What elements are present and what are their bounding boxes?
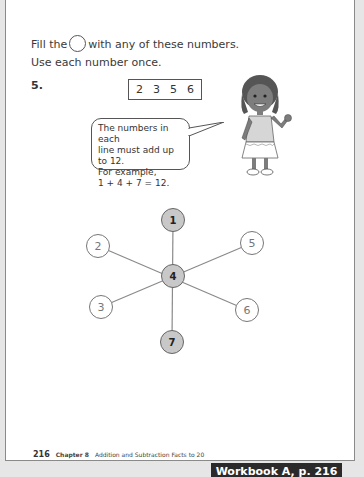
diagram-node-upper-right: 5 <box>241 232 264 255</box>
page-number: 216 <box>33 450 50 459</box>
node-value: 7 <box>169 337 176 348</box>
diagram-node-center: 4 <box>162 265 185 288</box>
workbook-caption: Workbook A, p. 216 <box>211 463 342 477</box>
node-value: 4 <box>170 271 177 282</box>
node-value: 3 <box>98 301 105 314</box>
diagram-node-upper-left: 2 <box>87 235 110 258</box>
node-value: 6 <box>244 304 251 317</box>
diagram-node-lower-right: 6 <box>236 299 259 322</box>
diagram-node-top: 1 <box>162 209 185 232</box>
diagram-node-lower-left: 3 <box>90 296 113 319</box>
page-footer: 216Chapter 8Addition and Subtraction Fac… <box>33 450 204 459</box>
diagram-node-bottom: 7 <box>161 331 184 354</box>
node-value: 1 <box>170 215 177 226</box>
chapter-title: Addition and Subtraction Facts to 20 <box>95 451 204 458</box>
chapter-label: Chapter 8 <box>56 451 89 458</box>
node-value: 2 <box>95 240 102 253</box>
node-value: 5 <box>249 237 256 250</box>
